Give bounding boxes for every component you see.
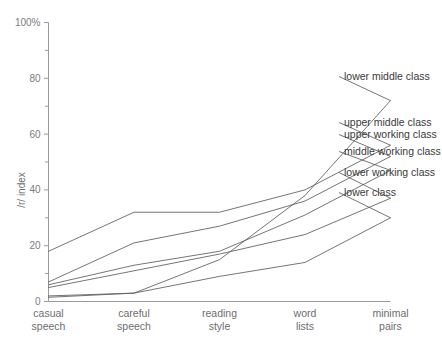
y-axis-tick-labels: 020406080100% <box>15 17 41 307</box>
x-category-label: word <box>293 307 317 319</box>
y-tick-label: 40 <box>29 184 41 195</box>
series-line-lower-middle-class <box>49 101 391 298</box>
series-line-upper-middle-class <box>49 145 391 251</box>
data-series-lines <box>49 101 391 298</box>
chart-container: 020406080100% /r/ index casualspeechcare… <box>0 0 442 341</box>
x-category-label: speech <box>117 320 151 332</box>
x-category-label: pairs <box>379 320 402 332</box>
x-category-label: reading <box>202 307 237 319</box>
x-category-label: casual <box>33 307 63 319</box>
series-label-lower-middle-class: lower middle class <box>344 70 430 82</box>
x-category-label: style <box>209 320 231 332</box>
series-line-lower-class <box>49 218 391 296</box>
x-category-label: lists <box>296 320 314 332</box>
y-tick-label: 60 <box>29 129 41 140</box>
series-label-lower-class: lower class <box>344 186 396 198</box>
series-label-upper-middle-class: upper middle class <box>344 116 432 128</box>
y-tick-label: 100% <box>15 17 41 28</box>
x-category-label: careful <box>118 307 150 319</box>
x-category-label: speech <box>32 320 66 332</box>
y-axis-title: /r/ index <box>16 172 27 208</box>
y-axis-title-text: /r/ index <box>16 172 27 208</box>
x-axis-category-labels: casualspeechcarefulspeechreadingstylewor… <box>32 307 409 332</box>
x-category-label: minimal <box>372 307 408 319</box>
series-label-middle-working-class: middle working class <box>344 145 441 157</box>
y-tick-label: 20 <box>29 240 41 251</box>
series-line-upper-working-class <box>49 156 391 282</box>
series-line-lower-working-class <box>49 198 391 287</box>
y-tick-label: 0 <box>35 296 41 307</box>
series-label-lower-working-class: lower working class <box>344 166 435 178</box>
series-annotation-labels: lower middle classupper middle classuppe… <box>344 70 441 198</box>
axes <box>44 23 391 302</box>
series-label-upper-working-class: upper working class <box>344 128 437 140</box>
y-axis-ticks <box>44 23 49 302</box>
r-index-line-chart: 020406080100% /r/ index casualspeechcare… <box>0 0 442 341</box>
y-tick-label: 80 <box>29 73 41 84</box>
